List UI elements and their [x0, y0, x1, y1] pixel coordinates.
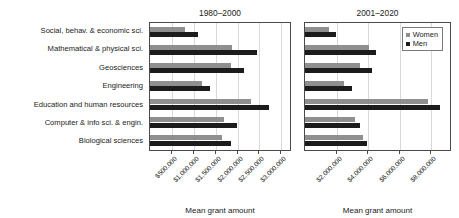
- tick-mark: [430, 151, 431, 154]
- x-axis-title: Mean grant amount: [149, 206, 291, 215]
- bar-group: [305, 96, 450, 114]
- bar-men: [305, 32, 336, 37]
- chart-figure: Social, behav. & economic sci. Mathemati…: [0, 0, 459, 218]
- category-label: Education and human resources: [0, 101, 143, 109]
- panel-2001-2020: 2001–2020 Women Men $2,000,000$4,000,000…: [304, 22, 451, 151]
- bar-group: [305, 77, 450, 95]
- tick-mark: [399, 151, 400, 154]
- tick-mark: [336, 151, 337, 154]
- bar-women: [150, 135, 222, 140]
- category-label: Biological sciences: [0, 137, 143, 145]
- x-axis-title: Mean grant amount: [304, 206, 451, 215]
- tick-mark: [237, 151, 238, 154]
- bar-group: [305, 59, 450, 77]
- tick-mark: [193, 151, 194, 154]
- panel-1980-2000: 1980–2000 $500,000$1,000,000$1,500,000$2…: [149, 22, 291, 151]
- tick-mark: [171, 151, 172, 154]
- tick-mark: [258, 151, 259, 154]
- panel-title: 2001–2020: [304, 8, 451, 18]
- bar-group: [150, 132, 290, 150]
- category-label: Engineering: [0, 82, 143, 90]
- tick-mark: [280, 151, 281, 154]
- bar-men: [150, 86, 210, 91]
- bar-women: [305, 27, 329, 32]
- category-label: Mathematical & physical sci.: [0, 45, 143, 53]
- bar-group: [150, 77, 290, 95]
- bar-men: [305, 86, 352, 91]
- bar-women: [305, 117, 355, 122]
- plot-area-2001-2020: Women Men: [304, 22, 451, 151]
- bar-men: [150, 32, 198, 37]
- plot-area-1980-2000: [149, 22, 291, 151]
- bar-women: [150, 27, 185, 32]
- category-label: Geosciences: [0, 64, 143, 72]
- bar-women: [150, 99, 251, 104]
- bar-men: [150, 123, 237, 128]
- bar-men: [150, 68, 244, 73]
- bar-women: [305, 63, 360, 68]
- bar-women: [305, 99, 428, 104]
- bar-group: [150, 23, 290, 41]
- bar-group: [150, 114, 290, 132]
- x-axis-ticks-1980-2000: $500,000$1,000,000$1,500,000$2,000,000$2…: [149, 151, 291, 157]
- bar-group: [305, 41, 450, 59]
- bar-women: [150, 63, 231, 68]
- bar-men: [305, 123, 360, 128]
- tick-mark: [215, 151, 216, 154]
- bar-group: [305, 23, 450, 41]
- bar-women: [305, 45, 369, 50]
- bar-women: [305, 135, 363, 140]
- bar-men: [305, 68, 372, 73]
- bar-women: [150, 45, 232, 50]
- bar-group: [150, 96, 290, 114]
- bar-group: [150, 41, 290, 59]
- bar-group: [305, 132, 450, 150]
- bar-men: [150, 105, 269, 110]
- tick-mark: [367, 151, 368, 154]
- category-axis-labels: Social, behav. & economic sci. Mathemati…: [0, 22, 146, 151]
- bar-group: [305, 114, 450, 132]
- bar-men: [305, 141, 367, 146]
- bar-men: [305, 50, 376, 55]
- bar-men: [150, 50, 257, 55]
- bar-group: [150, 59, 290, 77]
- bar-men: [150, 141, 231, 146]
- panel-title: 1980–2000: [149, 8, 291, 18]
- bar-women: [150, 117, 224, 122]
- bar-men: [305, 105, 440, 110]
- x-axis-ticks-2001-2020: $2,000,000$4,000,000$6,000,000$8,000,000: [304, 151, 451, 157]
- bar-women: [150, 81, 202, 86]
- category-label: Computer & info sci. & engin.: [0, 119, 143, 127]
- tick-label: $500,000: [139, 155, 178, 194]
- category-label: Social, behav. & economic sci.: [0, 27, 143, 35]
- bar-women: [305, 81, 344, 86]
